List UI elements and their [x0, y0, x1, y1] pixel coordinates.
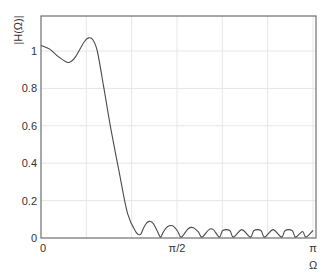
y-tick-label: 0.8 [22, 82, 37, 94]
plot-frame [41, 16, 316, 238]
x-axis-label: Ω [309, 259, 317, 271]
gridlines [41, 16, 316, 238]
y-tick-label: 0.6 [22, 120, 37, 132]
x-tick-label: π [309, 242, 317, 254]
x-tick-label: 0 [40, 242, 46, 254]
y-axis-ticks: 00.20.40.60.81 [22, 45, 37, 244]
frequency-response-chart: 00.20.40.60.81 0π/2π |H(Ω)| Ω [0, 0, 332, 275]
x-tick-label: π/2 [169, 242, 186, 254]
y-axis-label: |H(Ω)| [12, 15, 24, 44]
y-tick-label: 0.4 [22, 157, 37, 169]
x-axis-ticks: 0π/2π [40, 242, 317, 254]
y-tick-label: 0 [31, 232, 37, 244]
y-tick-label: 0.2 [22, 195, 37, 207]
y-tick-label: 1 [31, 45, 37, 57]
